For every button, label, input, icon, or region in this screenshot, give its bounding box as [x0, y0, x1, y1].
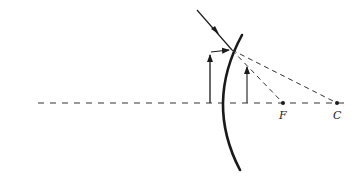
focal-point	[281, 101, 285, 105]
center-point	[335, 101, 339, 105]
focal-label: F	[279, 109, 287, 122]
reflected-ray-to-focal	[232, 50, 283, 103]
ray-diagram: F C	[0, 0, 360, 185]
diagram-canvas	[0, 0, 360, 185]
center-label: C	[333, 109, 341, 122]
object-top-ray	[211, 50, 229, 52]
ray-to-center	[232, 50, 337, 103]
